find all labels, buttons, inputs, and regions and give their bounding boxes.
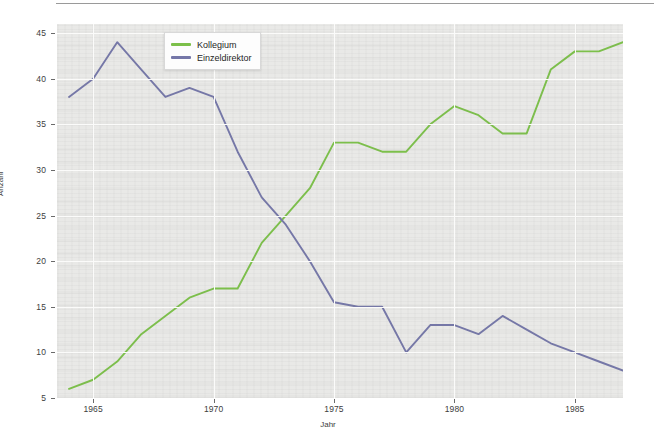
gridline-horizontal <box>57 261 623 262</box>
y-tick-label: 15 <box>12 302 46 312</box>
gridline-vertical <box>93 24 94 398</box>
gridline-vertical <box>454 24 455 398</box>
x-tick-mark <box>214 399 215 403</box>
chart-figure: 51015202530354045 19651970197519801985 A… <box>0 0 656 445</box>
gridline-vertical <box>575 24 576 398</box>
x-axis-title: Jahr <box>0 420 656 429</box>
y-tick-mark <box>51 307 55 308</box>
chart-legend: Kollegium Einzeldirektor <box>164 32 261 70</box>
gridline-horizontal <box>57 170 623 171</box>
plot-area <box>57 24 623 398</box>
gridline-horizontal <box>57 33 623 34</box>
x-tick-label: 1985 <box>545 404 605 414</box>
x-tick-mark <box>334 399 335 403</box>
x-tick-label: 1975 <box>304 404 364 414</box>
gridline-horizontal <box>57 124 623 125</box>
legend-label-kollegium: Kollegium <box>197 40 237 50</box>
gridline-horizontal <box>57 216 623 217</box>
x-tick-mark <box>454 399 455 403</box>
y-tick-mark <box>51 33 55 34</box>
y-tick-label: 40 <box>12 74 46 84</box>
gridline-vertical <box>214 24 215 398</box>
gridline-horizontal <box>57 79 623 80</box>
y-tick-label: 25 <box>12 211 46 221</box>
y-tick-label: 35 <box>12 119 46 129</box>
legend-swatch-kollegium <box>171 43 191 46</box>
x-tick-mark <box>93 399 94 403</box>
top-divider-rule <box>56 3 654 4</box>
x-tick-label: 1970 <box>184 404 244 414</box>
series-lines <box>57 24 623 398</box>
y-tick-mark <box>51 398 55 399</box>
y-tick-label: 30 <box>12 165 46 175</box>
legend-item-kollegium: Kollegium <box>171 38 252 51</box>
y-tick-label: 10 <box>12 347 46 357</box>
gridline-vertical <box>334 24 335 398</box>
y-tick-label: 45 <box>12 28 46 38</box>
gridline-horizontal <box>57 352 623 353</box>
y-tick-mark <box>51 261 55 262</box>
x-tick-mark <box>575 399 576 403</box>
y-tick-mark <box>51 216 55 217</box>
y-axis-title: Anzahl <box>0 172 5 196</box>
x-tick-label: 1965 <box>63 404 123 414</box>
y-tick-mark <box>51 352 55 353</box>
gridline-horizontal <box>57 307 623 308</box>
legend-item-einzeldirektor: Einzeldirektor <box>171 51 252 64</box>
y-tick-label: 5 <box>12 393 46 403</box>
y-tick-mark <box>51 79 55 80</box>
series-line-einzeldirektor <box>69 42 623 370</box>
legend-swatch-einzeldirektor <box>171 56 191 59</box>
y-tick-label: 20 <box>12 256 46 266</box>
y-tick-mark <box>51 124 55 125</box>
x-tick-label: 1980 <box>424 404 484 414</box>
y-tick-mark <box>51 170 55 171</box>
legend-label-einzeldirektor: Einzeldirektor <box>197 53 252 63</box>
